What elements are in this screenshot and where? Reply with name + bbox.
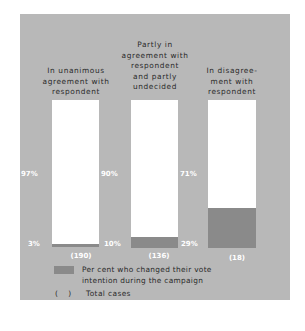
bar-3 xyxy=(208,100,256,248)
legend-cases-symbol: ( ) xyxy=(55,289,75,298)
label-line: respondent xyxy=(188,87,276,98)
label-line: respondent xyxy=(30,87,122,98)
label-line: agreement with xyxy=(30,77,122,88)
label-line: ment with xyxy=(188,77,276,88)
legend-line: intention during the campaign xyxy=(82,275,212,286)
bar-1 xyxy=(52,100,99,247)
label-line: agreement with xyxy=(110,51,200,62)
count-1: (190) xyxy=(56,252,106,260)
pct-unchanged-1: 97% xyxy=(21,170,38,178)
legend-cases-label: Total cases xyxy=(86,289,131,298)
category-label-2: Partly in agreement with respondent and … xyxy=(110,40,200,93)
bar-2-changed-segment xyxy=(131,237,178,248)
pct-unchanged-2: 90% xyxy=(101,170,118,178)
pct-changed-2: 10% xyxy=(104,240,121,248)
label-line: Partly in xyxy=(110,40,200,51)
legend-changed-swatch xyxy=(54,266,74,274)
label-line: undecided xyxy=(110,82,200,93)
bar-3-changed-segment xyxy=(208,208,256,248)
count-3: (18) xyxy=(212,254,262,262)
pct-changed-1: 3% xyxy=(28,240,40,248)
pct-unchanged-3: 71% xyxy=(180,170,197,178)
legend-line: Per cent who changed their vote xyxy=(82,264,212,275)
legend-changed-label: Per cent who changed their vote intentio… xyxy=(82,264,212,286)
count-2: (136) xyxy=(134,252,184,260)
label-line: In unanimous xyxy=(30,66,122,77)
label-line: and partly xyxy=(110,72,200,83)
pct-changed-3: 29% xyxy=(181,240,198,248)
category-label-1: In unanimous agreement with respondent xyxy=(30,66,122,98)
bar-2 xyxy=(131,100,178,248)
category-label-3: In disagree- ment with respondent xyxy=(188,66,276,98)
bar-1-changed-segment xyxy=(52,244,99,247)
label-line: In disagree- xyxy=(188,66,276,77)
label-line: respondent xyxy=(110,61,200,72)
